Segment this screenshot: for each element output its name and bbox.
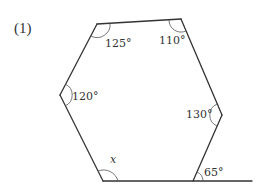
angle-label-right: 130° [186, 108, 213, 121]
edge-lower-left [60, 95, 103, 181]
angle-label-x: x [110, 153, 117, 166]
edge-top [97, 19, 181, 24]
angle-label-left: 120° [72, 90, 99, 103]
angle-arc-exterior [197, 172, 203, 181]
hexagon-diagram: (1) 125° 110° 120° 130° x 65° [0, 0, 264, 196]
angle-label-top-right: 110° [159, 34, 186, 47]
angle-label-exterior: 65° [204, 166, 224, 179]
problem-number: (1) [14, 20, 32, 37]
angle-arc-bottom-left [98, 170, 118, 181]
angle-label-top-left: 125° [105, 37, 132, 50]
edge-upper-right [181, 19, 222, 115]
